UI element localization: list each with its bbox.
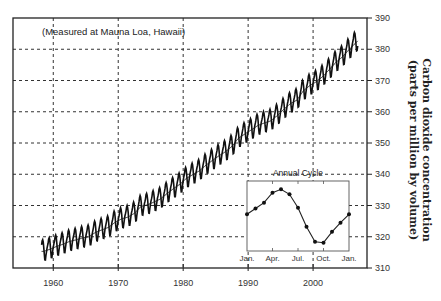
inset-tick-label: Jan.: [341, 254, 356, 263]
x-tick-label: 2000: [303, 278, 323, 288]
chart: (Measured at Mauna Loa, Hawaii) 19601970…: [0, 0, 441, 301]
inset-point: [288, 192, 292, 196]
y-tick-label: 350: [375, 138, 390, 148]
y-tick-label: 340: [375, 169, 390, 179]
y-tick-label: 360: [375, 107, 390, 117]
y-axis: 310320330340350360370380390: [367, 13, 390, 273]
y-tick-label: 330: [375, 201, 390, 211]
x-tick-label: 1970: [108, 278, 128, 288]
inset-point: [279, 187, 283, 191]
inset-point: [322, 241, 326, 245]
inset-tick-label: Apr.: [265, 254, 279, 263]
y-axis-title: Carbon dioxide concentration (parts per …: [407, 58, 433, 241]
inset-tick-label: Jul.: [292, 254, 304, 263]
y-axis-title-line-2: (parts per million by volume): [407, 60, 420, 240]
x-tick-label: 1980: [173, 278, 193, 288]
x-tick-label: 1990: [238, 278, 258, 288]
inset-point: [330, 230, 334, 234]
inset-tick-label: Oct.: [316, 254, 331, 263]
y-tick-label: 320: [375, 232, 390, 242]
inset-point: [313, 240, 317, 244]
inset-point: [262, 201, 266, 205]
y-tick-label: 310: [375, 263, 390, 273]
annual-cycle-inset: Annual Cycle Jan.Apr.Jul.Oct.Jan.: [239, 168, 356, 263]
x-tick-label: 1960: [43, 278, 63, 288]
inset-frame: [247, 181, 349, 251]
inset-point: [347, 212, 351, 216]
inset-title: Annual Cycle: [273, 168, 323, 178]
inset-point: [271, 191, 275, 195]
y-tick-label: 370: [375, 76, 390, 86]
y-tick-label: 380: [375, 44, 390, 54]
y-axis-title-line-1: Carbon dioxide concentration: [420, 58, 433, 241]
y-tick-label: 390: [375, 13, 390, 23]
inset-point: [339, 221, 343, 225]
inset-point: [254, 207, 258, 211]
inset-point: [296, 206, 300, 210]
annotation: (Measured at Mauna Loa, Hawaii): [42, 26, 185, 37]
inset-point: [305, 225, 309, 229]
inset-point: [245, 212, 249, 216]
inset-tick-label: Jan.: [239, 254, 254, 263]
